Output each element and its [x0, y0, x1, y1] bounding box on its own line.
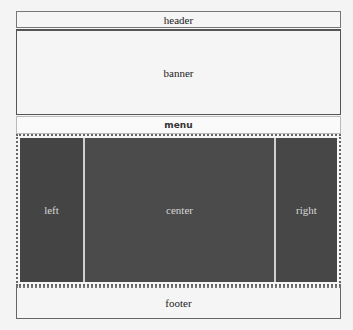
- footer-region: footer: [16, 286, 341, 319]
- menu-label: menu: [164, 120, 192, 130]
- center-column-label: center: [166, 204, 193, 216]
- left-column-label: left: [44, 204, 59, 216]
- banner-region: banner: [16, 29, 341, 115]
- banner-label: banner: [164, 67, 194, 79]
- content-region: left center right: [16, 134, 341, 286]
- left-column: left: [20, 138, 83, 282]
- center-column: center: [85, 138, 274, 282]
- menu-region: menu: [16, 116, 341, 134]
- footer-label: footer: [165, 297, 191, 309]
- right-column-label: right: [296, 204, 317, 216]
- header-region: header: [16, 11, 341, 28]
- header-label: header: [164, 14, 193, 26]
- right-column: right: [276, 138, 337, 282]
